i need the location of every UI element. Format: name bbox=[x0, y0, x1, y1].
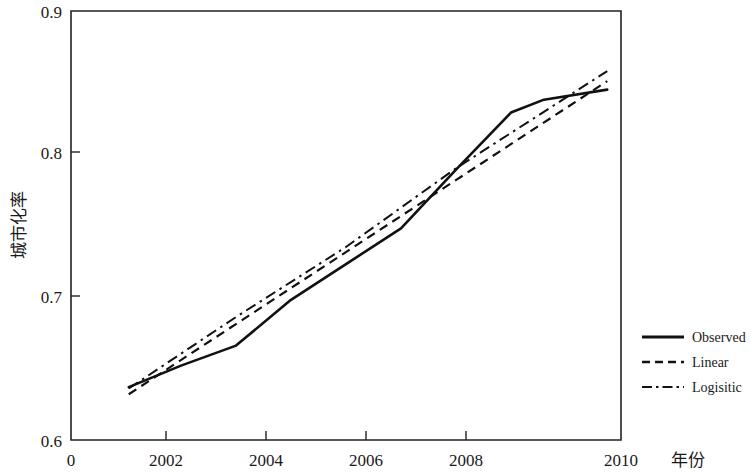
y-tick-label-0-9: 0.9 bbox=[41, 3, 62, 22]
x-tick-label-2010: 2010 bbox=[604, 451, 638, 470]
y-axis-ticks bbox=[71, 152, 80, 296]
x-axis-title: 年份 bbox=[671, 451, 705, 470]
y-tick-label-0-6: 0.6 bbox=[41, 432, 62, 451]
legend-label-linear: Linear bbox=[692, 355, 729, 370]
y-tick-label-0-7: 0.7 bbox=[41, 288, 63, 307]
series-line-linear bbox=[129, 81, 608, 394]
y-axis-tick-labels: 0.9 0.8 0.7 0.6 bbox=[41, 3, 63, 451]
chart-legend: Observed Linear Logisitic bbox=[642, 330, 746, 395]
series-line-logistic bbox=[129, 71, 608, 388]
x-tick-label-2008: 2008 bbox=[449, 451, 483, 470]
legend-label-logistic: Logisitic bbox=[692, 380, 742, 395]
x-tick-label-2006: 2006 bbox=[349, 451, 383, 470]
x-axis-tick-labels: 0 2002 2004 2006 2008 2010 bbox=[67, 451, 638, 470]
x-axis-ticks bbox=[166, 431, 466, 440]
y-tick-label-0-8: 0.8 bbox=[41, 144, 62, 163]
data-series-group bbox=[129, 71, 608, 394]
x-tick-label-2004: 2004 bbox=[249, 451, 284, 470]
chart-figure: 0.9 0.8 0.7 0.6 0 2002 2004 2006 2008 20… bbox=[0, 0, 751, 473]
x-origin-label: 0 bbox=[67, 451, 76, 470]
x-tick-label-2002: 2002 bbox=[149, 451, 183, 470]
urbanization-rate-line-chart: 0.9 0.8 0.7 0.6 0 2002 2004 2006 2008 20… bbox=[0, 0, 751, 473]
legend-label-observed: Observed bbox=[692, 330, 746, 345]
y-axis-title: 城市化率 bbox=[10, 191, 29, 259]
